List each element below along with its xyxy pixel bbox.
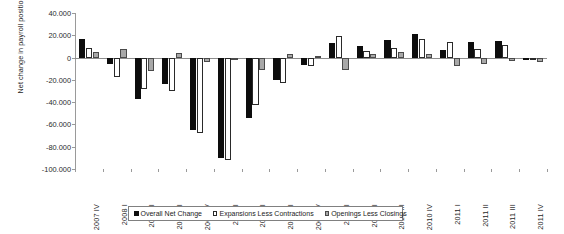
x-tick-mark xyxy=(519,169,520,172)
y-tick-label: -40.000 xyxy=(46,98,71,107)
bar-group xyxy=(246,13,266,169)
bar xyxy=(370,54,376,57)
y-tick-label: 20.000 xyxy=(48,31,71,40)
bar xyxy=(190,58,196,130)
bar xyxy=(357,46,363,57)
bar xyxy=(273,58,279,80)
bar-group xyxy=(357,13,377,169)
bar xyxy=(93,52,99,58)
bar xyxy=(447,42,453,58)
bar xyxy=(148,58,154,71)
x-tick-mark xyxy=(242,169,243,172)
bar xyxy=(79,39,85,58)
bar-group xyxy=(218,13,238,169)
bar xyxy=(141,58,147,89)
legend-item[interactable]: Openings Less Closings xyxy=(325,210,407,217)
x-tick-mark xyxy=(464,169,465,172)
bar xyxy=(107,58,113,65)
x-tick-mark xyxy=(491,169,492,172)
bar xyxy=(315,56,321,58)
bar xyxy=(537,58,543,62)
bar-group xyxy=(107,13,127,169)
bar xyxy=(246,58,252,118)
y-tick-label: -60.000 xyxy=(46,120,71,129)
x-tick-mark xyxy=(297,169,298,172)
legend-item-label: Expansions Less Contractions xyxy=(219,210,313,217)
x-tick-mark xyxy=(103,169,104,172)
bar-group xyxy=(440,13,460,169)
x-tick-mark xyxy=(75,169,76,172)
bar xyxy=(412,34,418,57)
x-tick-label: 2010 IV xyxy=(425,204,434,230)
bar-group xyxy=(523,13,543,169)
bar xyxy=(426,54,432,57)
x-tick-label: 2007 IV xyxy=(92,204,101,230)
filled-black-square-icon xyxy=(134,211,139,216)
bar xyxy=(523,58,529,60)
bar xyxy=(204,58,210,62)
bar-group xyxy=(329,13,349,169)
bar-group xyxy=(301,13,321,169)
bar xyxy=(225,58,231,161)
bar xyxy=(218,58,224,158)
plot-area: 40.00020.0000-20.000-40.000-60.000-80.00… xyxy=(75,13,547,169)
bar xyxy=(329,43,335,57)
bar-group xyxy=(495,13,515,169)
x-tick-label: 2011 III xyxy=(508,204,517,229)
bar xyxy=(363,51,369,58)
x-tick-mark xyxy=(131,169,132,172)
x-tick-mark xyxy=(353,169,354,172)
y-axis-title: Net change in payroll positions xyxy=(16,0,30,114)
outlined-white-square-icon xyxy=(213,211,218,216)
legend-item-label: Overall Net Change xyxy=(141,210,202,217)
x-tick-mark xyxy=(380,169,381,172)
bar-group xyxy=(468,13,488,169)
y-tick-label: 40.000 xyxy=(48,9,71,18)
bar xyxy=(391,48,397,58)
bar xyxy=(280,58,286,84)
chart-legend: Overall Net ChangeExpansions Less Contra… xyxy=(128,206,403,221)
x-tick-label: 2011 IV xyxy=(536,204,545,230)
bar xyxy=(440,50,446,58)
bar-group xyxy=(384,13,404,169)
payroll-change-chart: Net change in payroll positions 40.00020… xyxy=(0,0,564,234)
legend-item[interactable]: Overall Net Change xyxy=(134,210,202,217)
bar xyxy=(384,40,390,58)
bar xyxy=(120,49,126,58)
filled-gray-square-icon xyxy=(325,211,330,216)
x-tick-mark xyxy=(547,169,548,172)
x-tick-mark xyxy=(269,169,270,172)
bar-group xyxy=(135,13,155,169)
bar xyxy=(342,58,348,70)
legend-item[interactable]: Expansions Less Contractions xyxy=(213,210,314,217)
x-tick-mark xyxy=(436,169,437,172)
bar xyxy=(502,45,508,57)
bar xyxy=(495,41,501,58)
bar xyxy=(169,58,175,91)
bar xyxy=(135,58,141,99)
bar xyxy=(468,42,474,58)
bar xyxy=(197,58,203,134)
bar xyxy=(86,48,92,58)
bar-group xyxy=(273,13,293,169)
x-tick-mark xyxy=(214,169,215,172)
bar xyxy=(481,58,487,65)
bar-group xyxy=(79,13,99,169)
x-tick-label: 2011 II xyxy=(481,204,490,227)
x-tick-mark xyxy=(186,169,187,172)
bar xyxy=(114,58,120,77)
x-tick-label: 2011 I xyxy=(453,204,462,225)
bar-group xyxy=(162,13,182,169)
bar xyxy=(259,58,265,70)
bar-group xyxy=(412,13,432,169)
bar xyxy=(509,58,515,61)
x-axis-labels: 2007 IV2008 I2008 II2008 III2008 IV2009 … xyxy=(75,170,547,210)
y-tick-label: -80.000 xyxy=(46,142,71,151)
bar-group xyxy=(190,13,210,169)
bar xyxy=(308,58,314,67)
legend-item-label: Openings Less Closings xyxy=(331,210,407,217)
bar xyxy=(336,36,342,57)
bar xyxy=(231,58,237,60)
x-tick-mark xyxy=(158,169,159,172)
bar-groups xyxy=(75,13,547,169)
